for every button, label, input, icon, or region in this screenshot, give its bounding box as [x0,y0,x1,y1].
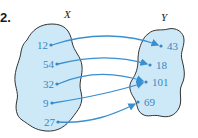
svg-text:27: 27 [44,116,56,128]
svg-text:32: 32 [43,78,54,90]
svg-text:101: 101 [152,76,169,88]
svg-text:54: 54 [43,58,55,70]
svg-text:43: 43 [167,40,179,52]
svg-text:69: 69 [144,96,156,108]
mapping-diagram: 12 54 32 9 27 43 18 101 69 [0,0,198,138]
svg-text:18: 18 [156,59,168,71]
svg-text:12: 12 [37,39,48,51]
svg-text:9: 9 [43,97,49,109]
